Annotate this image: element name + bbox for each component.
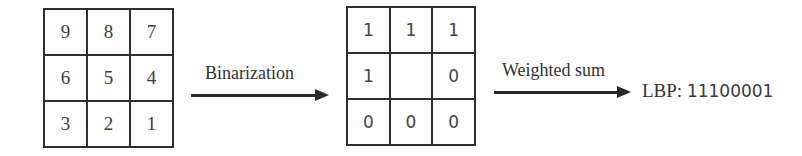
binary-cell: 1 [390, 7, 433, 53]
binary-cell: 1 [432, 7, 475, 53]
input-pixel-grid: 9 8 7 6 5 4 3 2 1 [43, 8, 174, 148]
lbp-result: LBP: 11100001 [642, 80, 773, 102]
input-cell: 9 [44, 9, 87, 55]
binary-cell: 1 [347, 53, 390, 99]
input-center-cell: 5 [87, 55, 130, 101]
input-cell: 4 [130, 55, 173, 101]
input-cell: 8 [87, 9, 130, 55]
input-cell: 7 [130, 9, 173, 55]
binary-cell: 0 [347, 99, 390, 145]
binary-cell: 1 [347, 7, 390, 53]
input-cell: 3 [44, 101, 87, 147]
binarization-arrow-icon [191, 94, 325, 97]
binary-cell: 0 [432, 53, 475, 99]
weighted-sum-arrow-icon [494, 91, 627, 94]
input-cell: 6 [44, 55, 87, 101]
binarization-label: Binarization [205, 63, 294, 84]
input-cell: 1 [130, 101, 173, 147]
binary-grid: 1 1 1 1 0 0 0 0 [346, 6, 476, 146]
input-cell: 2 [87, 101, 130, 147]
lbp-code: 11100001 [687, 81, 774, 101]
binary-cell: 0 [390, 99, 433, 145]
lbp-prefix: LBP: [642, 80, 682, 101]
weighted-sum-label: Weighted sum [502, 60, 605, 81]
binary-cell: 0 [432, 99, 475, 145]
binary-center-cell [390, 53, 433, 99]
